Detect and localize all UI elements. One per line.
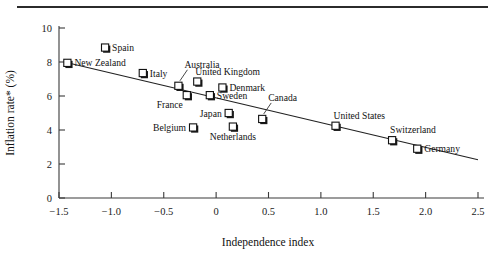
x-tick-label: −1.5 — [49, 206, 68, 217]
y-tick-label: 2 — [47, 159, 52, 170]
data-point[interactable] — [332, 122, 341, 131]
data-point[interactable] — [389, 137, 398, 146]
x-tick-label: 1.5 — [367, 206, 380, 217]
data-point[interactable] — [259, 115, 268, 124]
marker-square — [194, 78, 201, 85]
point-label-new-zealand: New Zealand — [74, 57, 126, 68]
marker-square — [225, 109, 232, 116]
label-leader-line — [180, 70, 188, 81]
data-point[interactable] — [225, 109, 234, 118]
x-tick-label: 2.0 — [419, 206, 432, 217]
x-axis-title: Independence index — [222, 236, 315, 249]
data-point[interactable] — [101, 44, 110, 53]
data-point[interactable] — [64, 59, 73, 68]
point-label-spain: Spain — [112, 42, 134, 53]
marker-square — [101, 44, 108, 51]
marker-square — [183, 92, 190, 99]
point-label-japan: Japan — [200, 108, 222, 119]
marker-square — [64, 59, 71, 66]
marker-square — [139, 69, 146, 76]
point-label-netherlands: Netherlands — [210, 131, 257, 142]
point-label-canada: Canada — [268, 92, 298, 103]
y-tick-label: 4 — [47, 125, 53, 136]
data-point[interactable] — [206, 92, 215, 101]
label-leader-line — [264, 103, 272, 114]
marker-square — [175, 82, 182, 89]
marker-square — [229, 123, 236, 130]
x-tick-label: 1.0 — [314, 206, 327, 217]
marker-square — [259, 115, 266, 122]
data-point[interactable] — [139, 69, 148, 78]
point-label-france: France — [157, 99, 183, 110]
marker-square — [414, 145, 421, 152]
x-tick-label: −0.5 — [154, 206, 173, 217]
x-tick-label: −1.0 — [102, 206, 121, 217]
point-label-united-kingdom: United Kingdom — [195, 66, 260, 77]
marker-square — [332, 122, 339, 129]
scatter-plot: 0246810−1.5−1.0−0.500.51.01.52.02.5 New … — [0, 0, 491, 253]
data-point[interactable] — [175, 82, 184, 91]
y-axis-title: Inflation rate* (%) — [4, 70, 17, 156]
data-point[interactable] — [414, 145, 423, 154]
point-label-belgium: Belgium — [153, 122, 187, 133]
point-label-sweden: Sweden — [217, 90, 248, 101]
y-tick-label: 6 — [47, 91, 52, 102]
figure-container: 0246810−1.5−1.0−0.500.51.01.52.02.5 New … — [0, 0, 491, 253]
marker-square — [206, 92, 213, 99]
marker-square — [389, 137, 396, 144]
point-label-switzerland: Switzerland — [390, 124, 436, 135]
x-tick-label: 0.5 — [262, 206, 275, 217]
x-tick-label: 2.5 — [471, 206, 484, 217]
y-tick-label: 10 — [42, 23, 53, 34]
y-tick-label: 0 — [47, 193, 52, 204]
data-point[interactable] — [189, 124, 198, 133]
y-tick-label: 8 — [47, 57, 52, 68]
point-label-italy: Italy — [150, 68, 168, 79]
marker-square — [189, 124, 196, 131]
data-point[interactable] — [183, 92, 192, 101]
point-labels-group: New ZealandSpainItalyAustraliaUnited Kin… — [74, 42, 460, 154]
point-label-germany: Germany — [424, 143, 460, 154]
point-label-united-states: United States — [334, 110, 386, 121]
data-point[interactable] — [194, 78, 203, 87]
x-tick-label: 0 — [214, 206, 219, 217]
